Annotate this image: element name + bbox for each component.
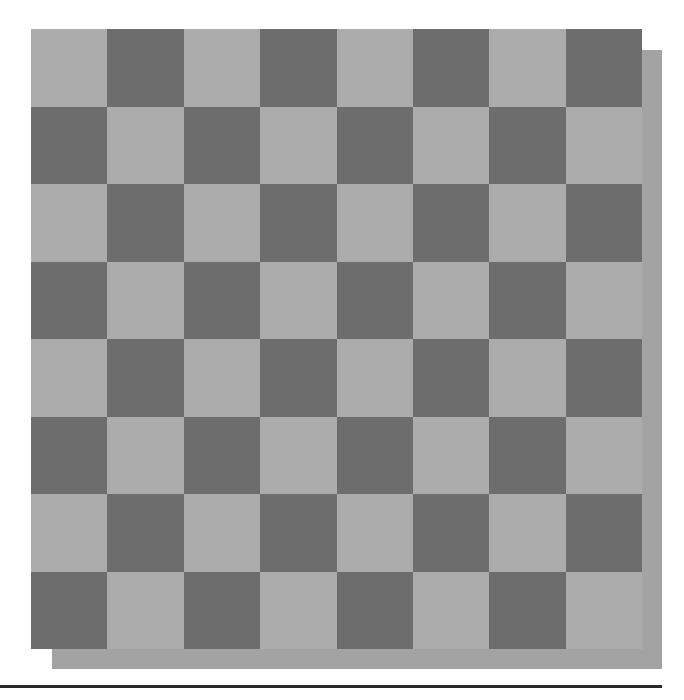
chess-board[interactable] bbox=[31, 29, 642, 649]
square-c2[interactable] bbox=[184, 494, 260, 572]
square-c7[interactable] bbox=[184, 107, 260, 185]
square-d8[interactable] bbox=[260, 29, 336, 107]
square-g6[interactable] bbox=[489, 184, 565, 262]
square-b2[interactable] bbox=[107, 494, 183, 572]
square-c3[interactable] bbox=[184, 417, 260, 495]
square-a1[interactable] bbox=[31, 572, 107, 650]
square-d6[interactable] bbox=[260, 184, 336, 262]
square-b4[interactable] bbox=[107, 339, 183, 417]
square-h1[interactable] bbox=[566, 572, 642, 650]
square-f8[interactable] bbox=[413, 29, 489, 107]
square-f2[interactable] bbox=[413, 494, 489, 572]
square-d5[interactable] bbox=[260, 262, 336, 340]
square-g2[interactable] bbox=[489, 494, 565, 572]
square-c6[interactable] bbox=[184, 184, 260, 262]
square-e8[interactable] bbox=[337, 29, 413, 107]
square-h7[interactable] bbox=[566, 107, 642, 185]
square-a6[interactable] bbox=[31, 184, 107, 262]
square-a7[interactable] bbox=[31, 107, 107, 185]
square-f5[interactable] bbox=[413, 262, 489, 340]
square-f4[interactable] bbox=[413, 339, 489, 417]
square-e1[interactable] bbox=[337, 572, 413, 650]
square-c1[interactable] bbox=[184, 572, 260, 650]
square-e5[interactable] bbox=[337, 262, 413, 340]
horizontal-rule bbox=[0, 685, 662, 688]
square-c5[interactable] bbox=[184, 262, 260, 340]
square-a8[interactable] bbox=[31, 29, 107, 107]
square-f1[interactable] bbox=[413, 572, 489, 650]
square-e7[interactable] bbox=[337, 107, 413, 185]
square-e2[interactable] bbox=[337, 494, 413, 572]
square-e4[interactable] bbox=[337, 339, 413, 417]
square-e3[interactable] bbox=[337, 417, 413, 495]
square-h6[interactable] bbox=[566, 184, 642, 262]
square-b1[interactable] bbox=[107, 572, 183, 650]
square-g1[interactable] bbox=[489, 572, 565, 650]
square-g7[interactable] bbox=[489, 107, 565, 185]
square-a4[interactable] bbox=[31, 339, 107, 417]
square-b6[interactable] bbox=[107, 184, 183, 262]
square-g8[interactable] bbox=[489, 29, 565, 107]
square-g3[interactable] bbox=[489, 417, 565, 495]
square-c4[interactable] bbox=[184, 339, 260, 417]
square-f3[interactable] bbox=[413, 417, 489, 495]
square-b8[interactable] bbox=[107, 29, 183, 107]
square-b5[interactable] bbox=[107, 262, 183, 340]
square-f6[interactable] bbox=[413, 184, 489, 262]
square-d1[interactable] bbox=[260, 572, 336, 650]
square-c8[interactable] bbox=[184, 29, 260, 107]
square-h8[interactable] bbox=[566, 29, 642, 107]
square-e6[interactable] bbox=[337, 184, 413, 262]
square-d7[interactable] bbox=[260, 107, 336, 185]
square-d2[interactable] bbox=[260, 494, 336, 572]
square-b3[interactable] bbox=[107, 417, 183, 495]
square-g5[interactable] bbox=[489, 262, 565, 340]
square-d4[interactable] bbox=[260, 339, 336, 417]
square-b7[interactable] bbox=[107, 107, 183, 185]
square-h3[interactable] bbox=[566, 417, 642, 495]
square-f7[interactable] bbox=[413, 107, 489, 185]
square-d3[interactable] bbox=[260, 417, 336, 495]
square-h5[interactable] bbox=[566, 262, 642, 340]
square-h4[interactable] bbox=[566, 339, 642, 417]
square-h2[interactable] bbox=[566, 494, 642, 572]
square-a2[interactable] bbox=[31, 494, 107, 572]
square-a3[interactable] bbox=[31, 417, 107, 495]
square-a5[interactable] bbox=[31, 262, 107, 340]
square-g4[interactable] bbox=[489, 339, 565, 417]
